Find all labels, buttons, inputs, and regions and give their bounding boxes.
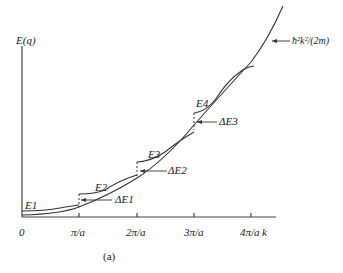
- figure-caption: (a): [103, 250, 116, 263]
- band-label-e2: E2: [94, 181, 108, 193]
- band-label-e4: E4: [195, 97, 209, 109]
- tick-label-4pi: 4π/a: [240, 226, 260, 238]
- free-electron-parabola: [22, 6, 283, 215]
- energy-band-diagram: E(q) k (a) ħ²k²/(2m) 0 π/a 2π/a 3π/a 4π/…: [0, 0, 343, 273]
- arrow-delta-e2: [140, 169, 167, 173]
- y-axis-label: E(q): [15, 34, 36, 47]
- band-e2: [79, 175, 137, 194]
- band-e3: [137, 132, 194, 162]
- x-axis-label: k: [262, 226, 268, 238]
- arrow-delta-e3: [197, 120, 217, 124]
- tick-label-3pi: 3π/a: [183, 226, 204, 238]
- arrow-delta-e1: [81, 198, 112, 202]
- tick-label-0: 0: [19, 226, 25, 238]
- gap-label-e1: ΔE1: [114, 193, 134, 205]
- free-curve-label: ħ²k²/(2m): [292, 35, 330, 47]
- gap-label-e3: ΔE3: [218, 115, 238, 127]
- arrow-free-curve: [272, 39, 290, 43]
- gap-label-e2: ΔE2: [167, 164, 187, 176]
- band-label-e3: E3: [147, 148, 161, 160]
- band-label-e1: E1: [24, 199, 37, 211]
- tick-label-2pi: 2π/a: [126, 226, 146, 238]
- tick-label-pi: π/a: [71, 226, 86, 238]
